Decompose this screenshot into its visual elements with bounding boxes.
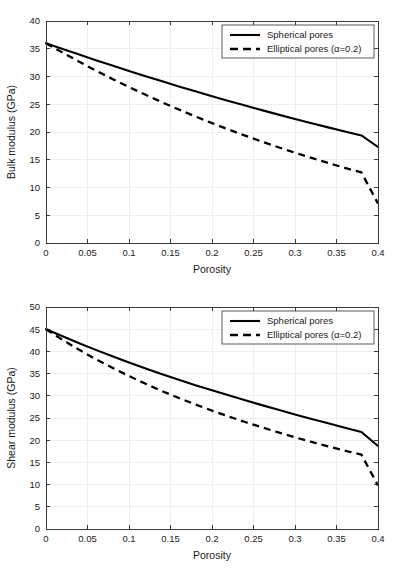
chart-panel-bulk-modulus: 00.050.10.150.20.250.30.350.405101520253… — [0, 0, 400, 286]
shear-modulus-plot: 00.050.10.150.20.250.30.350.405101520253… — [0, 286, 400, 572]
x-tick-label: 0.25 — [244, 247, 263, 258]
y-tick-label: 35 — [29, 43, 40, 54]
legend-label: Spherical pores — [267, 315, 333, 326]
x-tick-label: 0.35 — [327, 533, 346, 544]
y-tick-label: 30 — [29, 71, 40, 82]
y-tick-label: 10 — [29, 182, 40, 193]
y-tick-label: 5 — [35, 210, 40, 221]
legend-label: Spherical pores — [267, 29, 333, 40]
x-tick-label: 0.05 — [78, 247, 97, 258]
x-tick-label: 0.25 — [244, 533, 263, 544]
x-tick-label: 0.3 — [288, 533, 301, 544]
figure-container: 00.050.10.150.20.250.30.350.405101520253… — [0, 0, 400, 572]
y-tick-label: 10 — [29, 479, 40, 490]
y-tick-label: 30 — [29, 390, 40, 401]
x-tick-label: 0 — [43, 533, 48, 544]
y-axis-title: Bulk modulus (GPa) — [5, 85, 17, 179]
y-axis-title: Shear modulus (GPa) — [5, 367, 17, 469]
legend: Spherical poresElliptical pores (α=0.2) — [222, 311, 374, 344]
y-tick-label: 40 — [29, 346, 40, 357]
legend: Spherical poresElliptical pores (α=0.2) — [222, 25, 374, 58]
x-tick-label: 0.4 — [371, 247, 384, 258]
chart-panel-shear-modulus: 00.050.10.150.20.250.30.350.405101520253… — [0, 286, 400, 572]
x-tick-label: 0 — [43, 247, 48, 258]
y-tick-label: 15 — [29, 457, 40, 468]
legend-label: Elliptical pores (α=0.2) — [267, 43, 361, 54]
y-tick-label: 40 — [29, 15, 40, 26]
legend-label: Elliptical pores (α=0.2) — [267, 329, 361, 340]
y-tick-label: 45 — [29, 324, 40, 335]
y-tick-label: 25 — [29, 99, 40, 110]
y-tick-label: 20 — [29, 126, 40, 137]
bulk-modulus-plot: 00.050.10.150.20.250.30.350.405101520253… — [0, 0, 400, 286]
y-tick-label: 25 — [29, 412, 40, 423]
y-tick-label: 0 — [35, 237, 40, 248]
x-tick-label: 0.15 — [161, 533, 180, 544]
x-tick-label: 0.3 — [288, 247, 301, 258]
x-tick-label: 0.1 — [122, 533, 135, 544]
x-axis-title: Porosity — [193, 549, 232, 561]
y-tick-label: 5 — [35, 501, 40, 512]
x-tick-label: 0.2 — [205, 533, 218, 544]
x-tick-label: 0.4 — [371, 533, 384, 544]
y-tick-label: 15 — [29, 154, 40, 165]
y-tick-label: 20 — [29, 435, 40, 446]
x-tick-label: 0.2 — [205, 247, 218, 258]
y-tick-label: 50 — [29, 301, 40, 312]
x-tick-label: 0.05 — [78, 533, 97, 544]
x-tick-label: 0.1 — [122, 247, 135, 258]
y-tick-label: 35 — [29, 368, 40, 379]
y-tick-label: 0 — [35, 523, 40, 534]
x-tick-label: 0.35 — [327, 247, 346, 258]
x-axis-title: Porosity — [193, 263, 232, 275]
x-tick-label: 0.15 — [161, 247, 180, 258]
